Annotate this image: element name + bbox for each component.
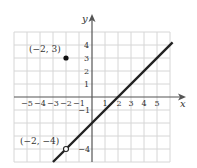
x-tick: −4 xyxy=(34,99,46,108)
x-tick: −5 xyxy=(21,99,33,108)
x-axis-label: x xyxy=(180,98,186,109)
x-tick-labels: −5 −4 −3 −2 −1 1 2 3 4 5 xyxy=(21,99,159,108)
y-tick: −4 xyxy=(78,145,90,154)
x-tick: 5 xyxy=(154,99,159,108)
filled-point xyxy=(63,55,68,60)
y-tick: 4 xyxy=(84,41,89,50)
x-tick: −2 xyxy=(60,99,72,108)
y-tick: 2 xyxy=(84,67,89,76)
filled-point-label: (−2, 3) xyxy=(29,44,61,54)
y-tick: −1 xyxy=(78,106,90,115)
y-tick: 3 xyxy=(84,54,89,63)
open-point-label: (−2, −4) xyxy=(20,136,59,146)
x-tick: 4 xyxy=(141,99,146,108)
x-tick: 2 xyxy=(116,99,121,108)
open-point xyxy=(64,147,69,152)
x-tick: 3 xyxy=(128,99,133,108)
coordinate-plane: x y −5 −4 −3 −2 −1 1 2 3 4 5 4 3 2 1 −1 … xyxy=(0,0,197,168)
x-tick: −3 xyxy=(47,99,59,108)
y-tick: 1 xyxy=(84,80,89,89)
y-axis-label: y xyxy=(81,13,88,24)
